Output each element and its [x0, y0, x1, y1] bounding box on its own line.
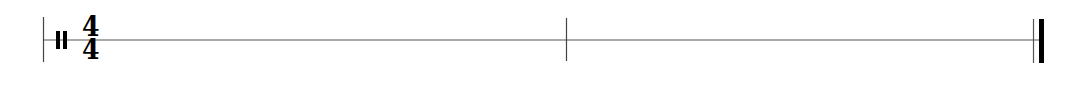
time-signature-denominator: 4	[82, 40, 100, 60]
staff-svg	[0, 0, 1084, 108]
music-score: 4 4	[0, 0, 1084, 108]
final-barline	[1034, 19, 1045, 63]
